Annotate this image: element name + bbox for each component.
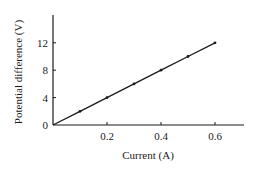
x-tick-label: 0.4 — [154, 130, 168, 142]
data-point — [214, 41, 217, 44]
y-tick-label: 12 — [37, 37, 48, 49]
data-point — [160, 69, 163, 72]
chart: 04812 0.20.40.6 Current (A) Potential di… — [0, 0, 253, 172]
data-point — [106, 96, 109, 99]
data-point — [79, 110, 82, 113]
y-tick-label: 0 — [43, 119, 49, 131]
data-series — [53, 41, 216, 125]
data-point — [133, 83, 136, 86]
y-tick-label: 4 — [43, 92, 49, 104]
x-axis-label: Current (A) — [122, 149, 174, 162]
x-tick-label: 0.6 — [208, 130, 222, 142]
y-axis-label: Potential difference (V) — [12, 20, 25, 125]
y-tick-label: 8 — [43, 64, 49, 76]
axes — [53, 15, 244, 125]
x-tick-label: 0.2 — [100, 130, 114, 142]
data-point — [187, 55, 190, 58]
